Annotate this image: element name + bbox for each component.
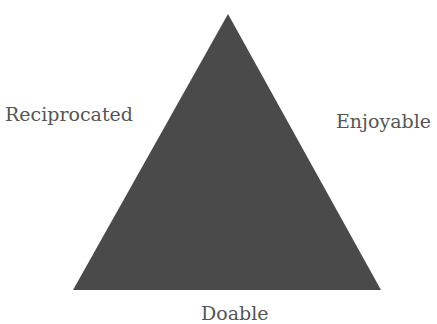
label-enjoyable: Enjoyable xyxy=(336,110,431,132)
label-doable: Doable xyxy=(201,302,268,324)
label-reciprocated: Reciprocated xyxy=(5,103,133,125)
